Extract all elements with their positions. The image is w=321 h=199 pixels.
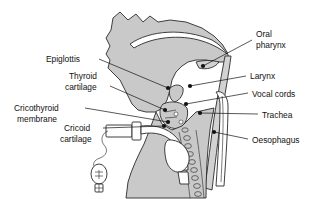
dot-thyroid <box>163 108 167 112</box>
dot-oral-pharynx <box>201 64 205 68</box>
label-trachea: Trachea <box>262 110 293 120</box>
label-epiglottis: Epiglottis <box>46 54 80 64</box>
label-cricoid-line2: cartilage <box>60 134 92 144</box>
diagram-canvas: Epiglottis Thyroid cartilage Cricothyroi… <box>0 0 321 199</box>
label-cricothyroid-line1: Cricothyroid <box>14 103 59 113</box>
label-larynx: Larynx <box>250 71 276 81</box>
anatomy-diagram: Epiglottis Thyroid cartilage Cricothyroi… <box>0 0 321 199</box>
dot-trachea <box>198 111 202 115</box>
dot-cricoid <box>162 124 166 128</box>
label-vocal-cords: Vocal cords <box>252 89 295 99</box>
dot-cricothyroid <box>166 120 170 124</box>
label-cricoid-line1: Cricoid <box>64 123 90 133</box>
laryngeal-detail-2 <box>179 120 183 124</box>
tube-connector <box>106 125 132 137</box>
dot-larynx <box>188 84 192 88</box>
tube-tip <box>178 172 189 184</box>
laryngeal-detail-1 <box>174 112 178 116</box>
dot-vocal-cords <box>184 102 188 106</box>
leader-larynx <box>190 76 246 86</box>
label-thyroid-line1: Thyroid <box>69 71 97 81</box>
tube-flange <box>132 122 141 140</box>
epiglottis-shape <box>169 85 183 102</box>
soft-palate <box>196 61 219 69</box>
label-oral-pharynx-line1: Oral <box>256 29 272 39</box>
label-thyroid-line2: cartilage <box>65 82 97 92</box>
label-oral-pharynx-line2: pharynx <box>256 40 287 50</box>
label-oesophagus: Oesophagus <box>252 135 300 145</box>
label-cricothyroid-line2: membrane <box>17 114 57 124</box>
dot-epiglottis <box>166 86 170 90</box>
dot-oesophagus <box>212 130 216 134</box>
